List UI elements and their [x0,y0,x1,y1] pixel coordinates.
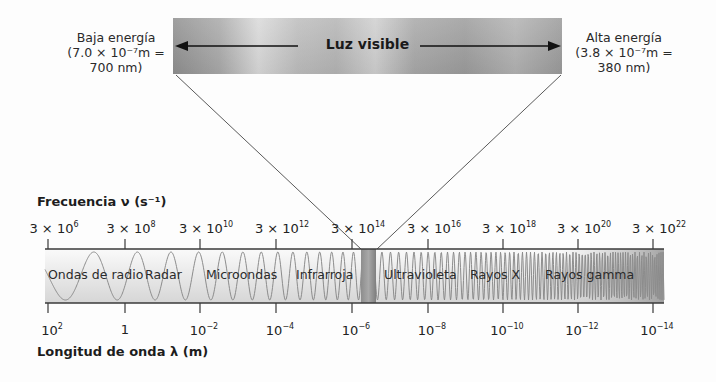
frequency-tick-label-exponent: 20 [601,220,611,229]
region-xray: Rayos X [470,267,520,282]
frequency-tick-label-base: 3 × 10 [106,221,150,236]
wavelength-tick-label-exponent: −8 [434,322,446,331]
frequency-tick-label-base: 3 × 10 [29,221,73,236]
wavelength-tick-label-exponent: −10 [507,322,524,331]
wavelength-tick-label-base: 10 [490,323,507,338]
region-infrared: Infrarroja [296,267,353,282]
wavelength-tick-label-base: 10 [41,323,58,338]
frequency-tick-label-exponent: 10 [223,220,233,229]
wavelength-tick-label-base: 10 [418,323,435,338]
wavelength-tick-label: 10−6 [342,322,370,338]
wavelength-tick-label-base: 10 [190,323,207,338]
frequency-tick-label: 3 × 108 [106,220,155,236]
frequency-tick-label: 3 × 1014 [331,220,385,236]
frequency-tick-label-base: 3 × 10 [255,221,299,236]
wavelength-tick-label: 102 [41,322,63,338]
frequency-tick-label-base: 3 × 10 [407,221,451,236]
frequency-tick-label: 3 × 1012 [255,220,309,236]
frequency-tick-label-exponent: 18 [526,220,536,229]
wavelength-tick-label: 10−2 [190,322,218,338]
wavelength-tick-label-exponent: 2 [58,322,63,331]
frequency-tick-label-exponent: 16 [451,220,461,229]
frequency-tick-label-base: 3 × 10 [179,221,223,236]
frequency-axis-title: Frecuencia ν (s⁻¹) [37,194,166,209]
wavelength-tick-label-base: 1 [121,322,129,337]
wavelength-tick-label: 10−4 [266,322,294,338]
wavelength-tick-label-exponent: −14 [657,322,674,331]
region-gamma: Rayos gamma [545,267,634,282]
frequency-tick-label-base: 3 × 10 [331,221,375,236]
wavelength-tick-label-base: 10 [640,323,657,338]
wavelength-tick-label-base: 10 [342,323,359,338]
wavelength-tick-label: 10−12 [565,322,598,338]
wavelength-tick-label: 10−10 [490,322,523,338]
frequency-tick-label-exponent: 14 [375,220,385,229]
region-radar: Radar [145,267,182,282]
wavelength-tick-label-exponent: −4 [282,322,294,331]
wavelength-tick-label-base: 10 [266,323,283,338]
visible-stripe [361,249,376,303]
wavelength-tick-label-base: 10 [565,323,582,338]
frequency-tick-label-exponent: 6 [73,220,78,229]
frequency-tick-label-exponent: 8 [150,220,155,229]
frequency-tick-label: 3 × 1018 [482,220,536,236]
frequency-tick-label-base: 3 × 10 [632,221,676,236]
region-microwave: Microondas [206,267,277,282]
frequency-tick-label: 3 × 1016 [407,220,461,236]
wavelength-tick-label-exponent: −2 [206,322,218,331]
frequency-tick-label-base: 3 × 10 [482,221,526,236]
visible-light-title: Luz visible [173,36,562,52]
wavelength-tick-label-exponent: −6 [358,322,370,331]
wavelength-tick-label: 10−8 [418,322,446,338]
wavelength-tick-label-exponent: −12 [582,322,599,331]
frequency-tick-label-base: 3 × 10 [557,221,601,236]
wavelength-axis-title: Longitud de onda λ (m) [37,344,208,359]
frequency-tick-label: 3 × 106 [29,220,78,236]
frequency-tick-label-exponent: 12 [299,220,309,229]
frequency-tick-label: 3 × 1020 [557,220,611,236]
wavelength-tick-label: 10−14 [640,322,673,338]
frequency-tick-label-exponent: 22 [676,220,686,229]
region-ultraviolet: Ultravioleta [384,267,457,282]
frequency-tick-label: 3 × 1022 [632,220,686,236]
region-radio: Ondas de radio [48,267,143,282]
frequency-tick-label: 3 × 1010 [179,220,233,236]
wavelength-tick-label: 1 [121,322,129,337]
